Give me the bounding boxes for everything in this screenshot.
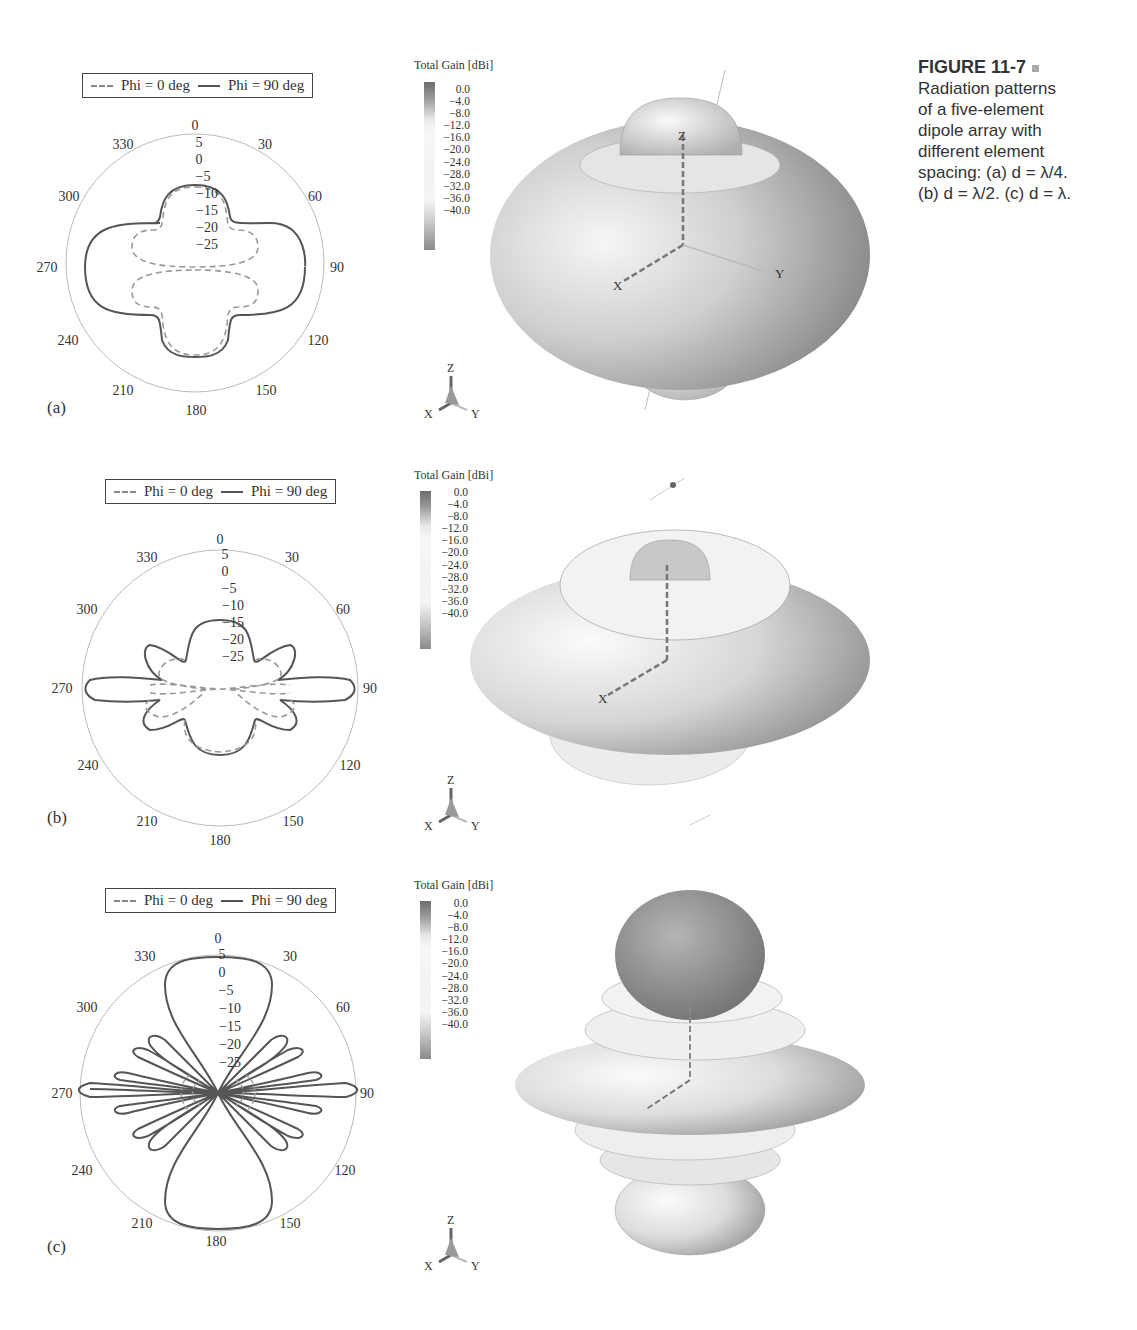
radial-label: −5	[196, 169, 211, 184]
radial-label: −20	[196, 220, 218, 235]
colorbar-tick: −20.0	[428, 143, 470, 155]
solid-line-icon	[221, 491, 243, 493]
angle-label: 270	[52, 1086, 73, 1101]
radial-label: 0	[222, 564, 229, 579]
radial-label: −15	[222, 615, 244, 630]
caption-line: different element	[918, 141, 1137, 162]
radial-label: 5	[222, 547, 229, 562]
radial-label: −5	[219, 983, 234, 998]
angle-label: 210	[113, 383, 134, 398]
colorbar-tick: −8.0	[428, 107, 470, 119]
angle-label: 240	[78, 758, 99, 773]
dashed-line-icon	[114, 491, 136, 493]
colorbar-tick: −36.0	[426, 1006, 468, 1018]
caption-line: dipole array with	[918, 120, 1137, 141]
triad-x: X	[424, 407, 433, 421]
angle-label: 90	[363, 681, 377, 696]
x-axis-label: X	[613, 278, 623, 293]
angle-label: 150	[283, 814, 304, 829]
triad-y: Y	[471, 407, 480, 421]
angle-label: 60	[336, 1000, 350, 1015]
legend-phi0: Phi = 0 deg	[144, 892, 213, 909]
polar-plot-a: 0 30 60 90 120 150 180 210 240 270 300 3…	[0, 95, 400, 435]
colorbar-tick: −12.0	[426, 933, 468, 945]
triad-x: X	[424, 819, 433, 833]
legend-phi90: Phi = 90 deg	[251, 483, 327, 500]
caption-square-icon	[1032, 65, 1039, 72]
panel-label-b: (b)	[47, 808, 67, 828]
angle-label: 240	[72, 1163, 93, 1178]
colorbar-ticks-c: 0.0 −4.0 −8.0 −12.0 −16.0 −20.0 −24.0 −2…	[426, 897, 468, 1030]
angle-label: 90	[360, 1086, 374, 1101]
x-axis-label: X	[598, 691, 608, 706]
radial-label: 0	[196, 152, 203, 167]
colorbar-tick: −4.0	[426, 909, 468, 921]
angle-label: 300	[77, 602, 98, 617]
angle-label: 150	[256, 383, 277, 398]
caption-line: (b) d = λ/2. (c) d = λ.	[918, 183, 1137, 204]
angle-label: 300	[77, 1000, 98, 1015]
colorbar-tick: −36.0	[428, 192, 470, 204]
angle-label: 60	[336, 602, 350, 617]
radial-label: 5	[219, 947, 226, 962]
radial-label: −10	[196, 186, 218, 201]
colorbar-tick: −16.0	[428, 131, 470, 143]
colorbar-tick: −40.0	[428, 204, 470, 216]
angle-label: 330	[135, 949, 156, 964]
radial-label: −20	[222, 632, 244, 647]
caption-line: Radiation patterns	[918, 78, 1137, 99]
colorbar-tick: 0.0	[428, 83, 470, 95]
figure-number: FIGURE 11-7	[918, 57, 1026, 77]
axis-triad-c: Z X Y	[415, 1210, 485, 1275]
triad-z: Z	[447, 773, 454, 787]
colorbar-tick: −4.0	[428, 95, 470, 107]
legend-b: Phi = 0 deg Phi = 90 deg	[105, 479, 336, 504]
angle-label: 0	[217, 532, 224, 547]
colorbar-tick: −28.0	[426, 982, 468, 994]
radial-label: −15	[196, 203, 218, 218]
legend-c: Phi = 0 deg Phi = 90 deg	[105, 888, 336, 913]
angle-label: 30	[258, 137, 272, 152]
colorbar-tick: −8.0	[426, 921, 468, 933]
legend-phi90: Phi = 90 deg	[228, 77, 304, 94]
angle-label: 330	[113, 137, 134, 152]
3d-pattern-c	[480, 880, 880, 1280]
y-axis-label: Y	[775, 266, 785, 281]
angle-label: 0	[215, 931, 222, 946]
solid-line-icon	[221, 900, 243, 902]
radial-label: −10	[219, 1001, 241, 1016]
panel-label-a: (a)	[47, 398, 66, 418]
radial-label: −25	[196, 237, 218, 252]
z-axis-label: Z	[678, 128, 686, 143]
radial-label: −20	[219, 1037, 241, 1052]
caption-line: of a five-element	[918, 99, 1137, 120]
triad-z: Z	[447, 361, 454, 375]
colorbar-tick: −28.0	[428, 168, 470, 180]
angle-label: 180	[206, 1234, 227, 1249]
colorbar-tick: −40.0	[426, 1018, 468, 1030]
colorbar-ticks-a: 0.0 −4.0 −8.0 −12.0 −16.0 −20.0 −24.0 −2…	[428, 83, 470, 216]
axis-triad-a: Z X Y	[415, 358, 485, 423]
angle-label: 30	[283, 949, 297, 964]
triad-x: X	[424, 1259, 433, 1273]
triad-y: Y	[471, 1259, 480, 1273]
angle-label: 240	[58, 333, 79, 348]
colorbar-tick: −24.0	[426, 970, 468, 982]
3d-pattern-a: Z X Y	[480, 60, 880, 430]
solid-line-icon	[198, 85, 220, 87]
angle-label: 120	[340, 758, 361, 773]
radial-label: 5	[196, 135, 203, 150]
radial-label: −25	[219, 1055, 241, 1070]
angle-label: 180	[210, 833, 231, 848]
colorbar-tick: 0.0	[426, 897, 468, 909]
angle-label: 150	[280, 1216, 301, 1231]
radial-label: 0	[219, 965, 226, 980]
colorbar-tick: −24.0	[428, 156, 470, 168]
legend-phi0: Phi = 0 deg	[121, 77, 190, 94]
angle-label: 180	[186, 403, 207, 418]
angle-label: 330	[137, 550, 158, 565]
dashed-line-icon	[91, 85, 113, 87]
radial-label: −15	[219, 1019, 241, 1034]
angle-label: 30	[285, 550, 299, 565]
caption-line: spacing: (a) d = λ/4.	[918, 162, 1137, 183]
